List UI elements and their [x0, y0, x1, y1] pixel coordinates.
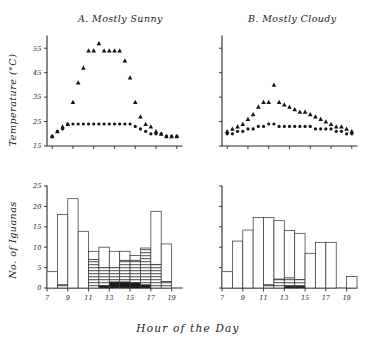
data-point-circle: [246, 127, 249, 130]
data-point-circle: [267, 122, 270, 125]
data-point-circle: [92, 122, 95, 125]
count-axis-label: No. of Iguanas: [7, 201, 18, 279]
data-point-circle: [170, 135, 173, 138]
bar-segment: [57, 285, 67, 288]
bar-segment: [284, 278, 294, 286]
data-point-circle: [118, 122, 121, 125]
data-point-circle: [329, 127, 332, 130]
data-point-circle: [108, 122, 111, 125]
y-tick-label: 5: [37, 264, 41, 272]
data-point-circle: [293, 125, 296, 128]
bar-segment: [151, 264, 161, 288]
bar-segment: [284, 230, 294, 277]
data-point-circle: [77, 122, 80, 125]
bar-segment: [326, 242, 336, 288]
data-point-circle: [82, 122, 85, 125]
data-point-circle: [134, 125, 137, 128]
bar-segment: [295, 279, 305, 286]
x-tick-label: 15: [301, 294, 309, 302]
data-point-circle: [56, 130, 59, 133]
data-point-circle: [175, 135, 178, 138]
bar-segment: [253, 217, 263, 288]
y-tick-label: 25: [32, 118, 41, 126]
bar-segment: [347, 277, 357, 288]
bar-segment: [47, 272, 57, 288]
y-tick-label: 45: [32, 69, 41, 77]
data-point-circle: [103, 122, 106, 125]
data-point-circle: [71, 122, 74, 125]
data-point-circle: [262, 125, 265, 128]
iguana-thermal-figure: A. Mostly Sunny B. Mostly Cloudy Tempera…: [0, 0, 377, 347]
y-tick-label: 35: [33, 93, 41, 101]
data-point-circle: [340, 130, 343, 133]
data-point-circle: [160, 132, 163, 135]
y-tick-label: 0: [37, 284, 41, 292]
data-point-circle: [113, 122, 116, 125]
bar-segment: [140, 285, 150, 288]
bar-segment: [99, 247, 109, 267]
bar-segment: [295, 233, 305, 279]
bar-segment: [315, 242, 325, 288]
x-tick-label: 15: [126, 294, 134, 302]
bar-segment: [99, 268, 109, 286]
data-point-circle: [66, 122, 69, 125]
bar-segment: [109, 282, 119, 288]
data-point-circle: [149, 132, 152, 135]
y-tick-label: 15: [33, 223, 41, 231]
data-point-circle: [123, 122, 126, 125]
data-point-circle: [61, 127, 64, 130]
bar-segment: [232, 241, 242, 288]
bar-segment: [264, 285, 274, 288]
bar-segment: [57, 215, 67, 285]
data-point-circle: [128, 122, 131, 125]
bar-segment: [68, 199, 78, 288]
bar-segment: [109, 251, 119, 267]
panel-b-title: B. Mostly Cloudy: [247, 13, 337, 24]
bar-segment: [140, 248, 150, 285]
x-axis-caption: Hour of the Day: [135, 322, 239, 334]
data-point-circle: [303, 125, 306, 128]
bar-segment: [151, 211, 161, 264]
x-tick-label: 13: [105, 294, 113, 302]
data-point-circle: [350, 132, 353, 135]
data-point-circle: [226, 132, 229, 135]
data-point-circle: [288, 125, 291, 128]
y-tick-label: 20: [32, 203, 41, 211]
bar-segment: [130, 255, 140, 260]
y-tick-label: 10: [33, 244, 41, 252]
bar-segment: [161, 281, 171, 288]
data-point-circle: [335, 130, 338, 133]
y-tick-label: 15: [33, 142, 41, 150]
data-point-circle: [51, 135, 54, 138]
data-point-circle: [252, 127, 255, 130]
x-tick-label: 19: [342, 294, 350, 302]
bar-segment: [243, 230, 253, 288]
data-point-circle: [324, 127, 327, 130]
data-point-circle: [345, 132, 348, 135]
bar-segment: [130, 260, 140, 282]
x-tick-label: 19: [167, 294, 175, 302]
temperature-axis-label: Temperature (°C): [7, 54, 18, 147]
panel-a-title: A. Mostly Sunny: [77, 13, 163, 24]
data-point-circle: [139, 127, 142, 130]
data-point-circle: [278, 125, 281, 128]
bar-segment: [264, 217, 274, 284]
bar-segment: [120, 260, 130, 282]
y-tick-label: 55: [33, 45, 41, 53]
data-point-circle: [97, 122, 100, 125]
bar-segment: [274, 279, 284, 288]
x-tick-label: 11: [259, 294, 267, 302]
x-tick-label: 9: [66, 294, 70, 302]
data-point-circle: [298, 125, 301, 128]
data-point-circle: [231, 132, 234, 135]
data-point-circle: [144, 130, 147, 133]
bar-segment: [89, 251, 99, 259]
x-tick-label: 17: [147, 294, 156, 302]
x-tick-label: 9: [241, 294, 245, 302]
y-tick-label: 25: [32, 182, 41, 190]
bar-segment: [130, 283, 140, 288]
bar-segment: [89, 259, 99, 288]
data-point-circle: [257, 125, 260, 128]
data-point-circle: [314, 127, 317, 130]
data-point-circle: [165, 135, 168, 138]
